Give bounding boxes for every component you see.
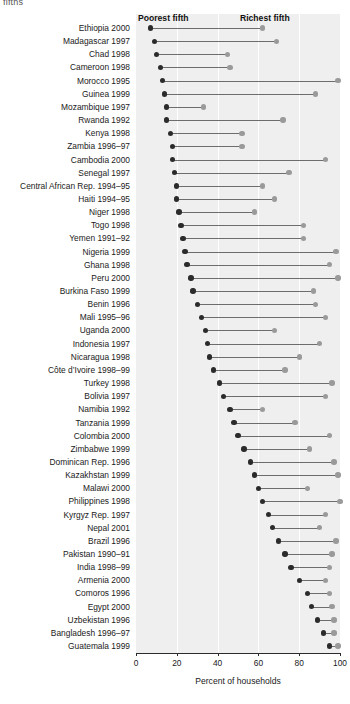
chart-row: Central African Rep. 1994–95 — [0, 180, 350, 193]
richest-fifth-dot — [307, 446, 312, 451]
row-connector — [187, 265, 330, 266]
row-connector — [150, 28, 262, 29]
chart-row: Kyrgyz Rep. 1997 — [0, 509, 350, 522]
chart-row: Cambodia 2000 — [0, 154, 350, 167]
row-connector — [244, 449, 309, 450]
row-label: Yemen 1991–92 — [0, 232, 130, 245]
row-connector — [191, 278, 338, 279]
row-connector — [254, 475, 338, 476]
row-label: Uganda 2000 — [0, 324, 130, 337]
row-label: Rwanda 1992 — [0, 114, 130, 127]
chart-row: Uganda 2000 — [0, 324, 350, 337]
chart-row: Bangladesh 1996–97 — [0, 627, 350, 640]
chart-row: Ghana 1998 — [0, 259, 350, 272]
chart-row: Haiti 1994–95 — [0, 193, 350, 206]
richest-fifth-dot — [313, 91, 318, 96]
richest-fifth-dot — [260, 407, 265, 412]
richest-fifth-dot — [327, 433, 332, 438]
poorest-fifth-dot — [315, 617, 320, 622]
x-tick-80 — [299, 653, 300, 656]
poorest-fifth-dot — [152, 39, 157, 44]
richest-fifth-dot — [301, 236, 306, 241]
richest-fifth-dot — [286, 170, 291, 175]
x-tick-label-20: 20 — [162, 658, 192, 668]
row-label: Madagascar 1997 — [0, 35, 130, 48]
row-label: Brazil 1996 — [0, 535, 130, 548]
row-label: Burkina Faso 1999 — [0, 285, 130, 298]
row-label: Kenya 1998 — [0, 127, 130, 140]
chart-row: Kazakhstan 1999 — [0, 469, 350, 482]
row-connector — [193, 291, 313, 292]
row-label: Armenia 2000 — [0, 574, 130, 587]
poorest-fifth-dot — [178, 223, 183, 228]
richest-fifth-dot — [335, 472, 340, 477]
poorest-fifth-dot — [170, 157, 175, 162]
richest-fifth-dot — [260, 183, 265, 188]
richest-fifth-dot — [225, 52, 230, 57]
poorest-fifth-dot — [172, 170, 177, 175]
x-tick-label-100: 100 — [325, 658, 350, 668]
poorest-fifth-dot — [270, 525, 275, 530]
x-axis-title: Percent of households — [136, 676, 340, 686]
poorest-fifth-dot — [217, 380, 222, 385]
richest-fifth-dot — [331, 459, 336, 464]
chart-row: Dominican Rep. 1996 — [0, 456, 350, 469]
chart-row: Madagascar 1997 — [0, 35, 350, 48]
chart-row: Pakistan 1990–91 — [0, 548, 350, 561]
row-connector — [171, 133, 242, 134]
poorest-fifth-dot — [276, 538, 281, 543]
row-connector — [167, 107, 204, 108]
row-connector — [197, 304, 315, 305]
row-connector — [173, 160, 326, 161]
richest-fifth-dot — [327, 565, 332, 570]
row-connector — [250, 462, 334, 463]
chart-row: Cameroon 1998 — [0, 61, 350, 74]
row-label: Ethiopia 2000 — [0, 22, 130, 35]
row-label: Chad 1998 — [0, 48, 130, 61]
row-label: Philippines 1998 — [0, 495, 130, 508]
richest-fifth-dot — [317, 525, 322, 530]
row-connector — [205, 330, 274, 331]
richest-fifth-dot — [323, 315, 328, 320]
richest-fifth-dot — [331, 617, 336, 622]
chart-row: Turkey 1998 — [0, 377, 350, 390]
row-connector — [165, 94, 316, 95]
richest-fifth-dot — [239, 131, 244, 136]
row-label: Mozambique 1997 — [0, 101, 130, 114]
row-label: Egypt 2000 — [0, 601, 130, 614]
row-connector — [273, 528, 320, 529]
row-label: Guatemala 1999 — [0, 640, 130, 653]
row-label: Kyrgyz Rep. 1997 — [0, 509, 130, 522]
poorest-fifth-dot — [205, 341, 210, 346]
poorest-fifth-dot — [188, 275, 193, 280]
row-label: Morocco 1995 — [0, 75, 130, 88]
chart-row: Nigeria 1999 — [0, 246, 350, 259]
row-label: Tanzania 1999 — [0, 417, 130, 430]
row-label: Cambodia 2000 — [0, 154, 130, 167]
richest-fifth-dot — [282, 367, 287, 372]
chart-row: Ethiopia 2000 — [0, 22, 350, 35]
poorest-fifth-dot — [164, 117, 169, 122]
poorest-fifth-dot — [282, 551, 287, 556]
x-axis-line — [136, 653, 340, 654]
row-connector — [209, 357, 299, 358]
poorest-fifth-dot — [164, 104, 169, 109]
row-connector — [181, 225, 303, 226]
row-connector — [177, 186, 263, 187]
richest-fifth-dot — [335, 643, 340, 648]
row-connector — [299, 580, 326, 581]
row-label: Bolivia 1997 — [0, 390, 130, 403]
poorest-fifth-dot — [207, 354, 212, 359]
chart-row: Mali 1995–96 — [0, 311, 350, 324]
poorest-fifth-dot — [266, 512, 271, 517]
row-connector — [220, 383, 332, 384]
row-label: Côte d’Ivoire 1998–99 — [0, 364, 130, 377]
chart-row: Uzbekistan 1996 — [0, 614, 350, 627]
row-label: Uzbekistan 1996 — [0, 614, 130, 627]
poorest-fifth-dot — [260, 499, 265, 504]
row-connector — [214, 370, 285, 371]
x-tick-label-40: 40 — [203, 658, 233, 668]
poorest-fifth-dot — [190, 288, 195, 293]
row-label: India 1998–99 — [0, 561, 130, 574]
richest-fifth-dot — [323, 157, 328, 162]
